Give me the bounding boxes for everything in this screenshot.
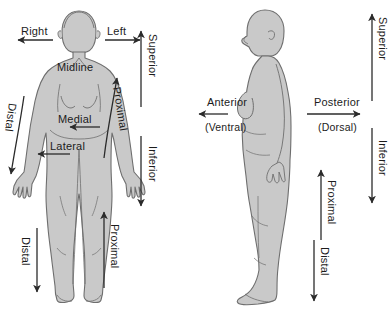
label-left: Left [107, 26, 126, 37]
label-midline: Midline [57, 62, 93, 73]
label-anterior: Anterior [207, 97, 247, 108]
label-dorsal: (Dorsal) [318, 122, 357, 133]
label-proximal-leg-right: Proximal [326, 180, 337, 224]
label-distal-leg-right: Distal [319, 247, 330, 276]
label-inferior-left: Inferior [147, 146, 158, 182]
label-medial: Medial [58, 114, 92, 125]
label-distal-leg: Distal [20, 237, 31, 266]
label-superior-right: Superior [377, 17, 388, 60]
label-lateral: Lateral [50, 141, 85, 152]
label-posterior: Posterior [314, 97, 360, 108]
label-superior-left: Superior [147, 34, 158, 77]
female-body-anterior-view [13, 11, 145, 303]
diagram-canvas [0, 0, 392, 313]
female-body-lateral-view [237, 10, 291, 305]
label-proximal-leg: Proximal [109, 224, 120, 268]
label-ventral: (Ventral) [205, 122, 246, 133]
label-inferior-right: Inferior [377, 140, 388, 176]
label-right: Right [21, 26, 48, 37]
anatomical-directions-diagram: Right Left Midline Medial Lateral Superi… [0, 0, 392, 313]
